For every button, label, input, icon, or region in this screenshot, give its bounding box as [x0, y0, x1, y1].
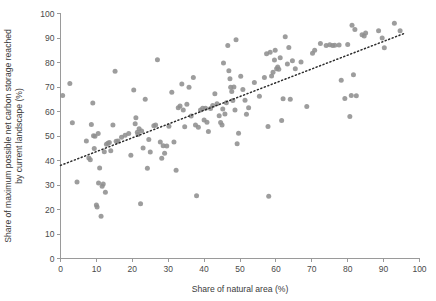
data-point [288, 97, 293, 102]
y-tick-label: 70 [45, 82, 55, 92]
y-tick-label: 100 [40, 9, 54, 19]
data-point [231, 85, 236, 90]
data-point [90, 100, 95, 105]
data-point [107, 140, 112, 145]
x-tick-label: 0 [58, 264, 63, 274]
x-tick-label: 70 [307, 264, 317, 274]
data-point [171, 139, 176, 144]
data-point [174, 168, 179, 173]
x-axis-title: Share of natural area (%) [192, 284, 289, 294]
data-point [128, 153, 133, 158]
data-point [155, 57, 160, 62]
data-point [141, 146, 146, 151]
y-tick-label: 20 [45, 205, 55, 215]
y-tick-label: 30 [45, 180, 55, 190]
data-point [145, 166, 150, 171]
data-point [392, 21, 397, 26]
data-point [70, 120, 75, 125]
data-point [351, 72, 356, 77]
data-point [271, 70, 276, 75]
data-point [222, 111, 227, 116]
data-point [234, 37, 239, 42]
data-point [97, 166, 102, 171]
x-tick-label: 100 [412, 264, 426, 274]
data-point [184, 102, 189, 107]
data-point [243, 98, 248, 103]
x-tick-label: 80 [343, 264, 353, 274]
data-point [272, 58, 277, 63]
data-point [212, 91, 217, 96]
data-point [345, 42, 350, 47]
data-point [221, 60, 226, 65]
data-point [131, 87, 136, 92]
data-point [99, 214, 104, 219]
data-point [89, 122, 94, 127]
data-point [283, 34, 288, 39]
data-point [60, 93, 65, 98]
data-point [332, 43, 337, 48]
data-point [138, 201, 143, 206]
data-point [88, 157, 93, 162]
y-axis-title-line-1: Share of maximum possible net carbon sto… [3, 29, 13, 243]
data-point [354, 93, 359, 98]
data-point [206, 129, 211, 134]
data-point [153, 122, 158, 127]
y-tick-label: 60 [45, 107, 55, 117]
data-point [92, 146, 97, 151]
data-point [281, 96, 286, 101]
data-point [179, 82, 184, 87]
data-point [187, 85, 192, 90]
data-point [220, 107, 225, 112]
data-point [266, 124, 271, 129]
data-point [318, 41, 323, 46]
scatter-chart: 0102030405060708090100010203040506070809… [0, 0, 436, 301]
data-point [382, 45, 387, 50]
data-point [240, 87, 245, 92]
data-point [279, 118, 284, 123]
data-point [278, 55, 283, 60]
data-point [204, 120, 209, 125]
data-point [268, 50, 273, 55]
data-point [159, 156, 164, 161]
data-point [96, 131, 101, 136]
axes-group: 0102030405060708090100010203040506070809… [40, 9, 427, 275]
data-point [164, 144, 169, 149]
data-point [312, 48, 317, 53]
data-point [290, 58, 295, 63]
data-point [236, 131, 241, 136]
x-tick-label: 60 [271, 264, 281, 274]
data-point [143, 97, 148, 102]
data-point [262, 75, 267, 80]
data-point [380, 36, 385, 41]
data-point [191, 75, 196, 80]
data-point [75, 180, 80, 185]
data-point [347, 114, 352, 119]
data-point [226, 68, 231, 73]
data-point [196, 125, 201, 130]
data-point [181, 108, 186, 113]
data-point [148, 149, 153, 154]
data-point [95, 205, 100, 210]
data-point [229, 89, 234, 94]
data-point [133, 121, 138, 126]
data-point [304, 104, 309, 109]
data-point [232, 108, 237, 113]
data-point [110, 122, 115, 127]
data-point [162, 151, 167, 156]
data-point [252, 80, 257, 85]
data-point [103, 190, 108, 195]
y-tick-label: 90 [45, 33, 55, 43]
y-tick-label: 0 [50, 254, 55, 264]
y-tick-label: 40 [45, 156, 55, 166]
data-point [220, 122, 225, 127]
chart-canvas: 0102030405060708090100010203040506070809… [0, 0, 436, 301]
data-point [376, 28, 381, 33]
data-point [342, 96, 347, 101]
data-point [285, 61, 290, 66]
data-point [169, 90, 174, 95]
data-point [67, 81, 72, 86]
data-point [225, 43, 230, 48]
y-tick-label: 10 [45, 229, 55, 239]
data-point [337, 43, 342, 48]
data-point [339, 78, 344, 83]
